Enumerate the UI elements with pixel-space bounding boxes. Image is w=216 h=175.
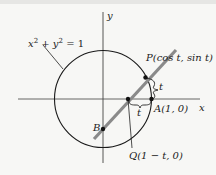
point-Q bbox=[126, 97, 130, 101]
x-axis-label: x bbox=[199, 102, 205, 113]
unit-circle-diagram: x2 + y2 = 1 y x P(cos t, sin t) A(1, 0) … bbox=[0, 0, 216, 175]
y-axis-label: y bbox=[106, 10, 113, 21]
point-P bbox=[143, 75, 147, 79]
segment-t-label: t bbox=[137, 107, 142, 118]
point-A-label: A(1, 0) bbox=[153, 103, 188, 114]
point-B bbox=[101, 127, 105, 131]
point-A bbox=[149, 97, 153, 101]
point-B-label: B bbox=[92, 122, 100, 133]
equation-x: x2 + y2 = 1 bbox=[28, 37, 84, 49]
arc-t-label: t bbox=[159, 81, 164, 92]
point-P-label: P(cos t, sin t) bbox=[145, 52, 213, 63]
secant-line bbox=[94, 50, 176, 139]
point-Q-label: Q(1 − t, 0) bbox=[129, 150, 183, 161]
